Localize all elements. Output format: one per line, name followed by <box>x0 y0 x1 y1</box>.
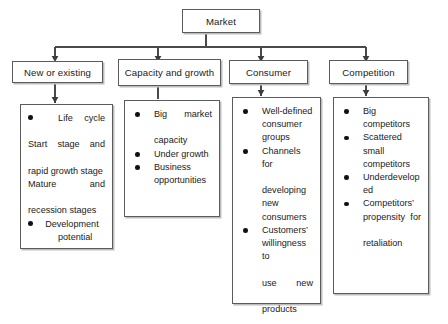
bullet-icon <box>135 152 140 157</box>
node-header-label: Capacity and growth <box>125 67 214 78</box>
list-item-text: use new <box>262 277 313 303</box>
list-item: Big competitors <box>341 105 421 131</box>
bullet-icon <box>243 228 248 233</box>
list-item: Customers’ willingness to use new produc… <box>240 224 313 316</box>
list-item-text: potential <box>58 232 92 242</box>
content-box-competition[interactable]: Big competitors Scattered small competit… <box>333 97 429 294</box>
arrowhead-content-4 <box>363 90 370 96</box>
node-header-new-or-existing[interactable]: New or existing <box>12 61 103 83</box>
bullet-icon <box>243 109 248 114</box>
list-item-text: Under growth <box>154 148 212 161</box>
bullet-icon <box>135 112 140 117</box>
node-market-root-label: Market <box>206 16 236 27</box>
list-item: Well-defined consumer groups <box>240 105 313 145</box>
content-list-new-or-existing: Life cycle Start stage and rapid growth … <box>28 112 105 244</box>
list-item-text: recession stages <box>28 205 96 215</box>
list-item-text: Start stage and <box>28 139 105 149</box>
list-item-text: Big market <box>154 108 212 134</box>
list-item-text: Life cycle <box>58 113 105 123</box>
content-box-consumer[interactable]: Well-defined consumer groups Channels fo… <box>232 97 321 304</box>
list-item: Channels for developing new consumers <box>240 145 313 224</box>
bullet-icon <box>344 109 349 114</box>
node-header-competition[interactable]: Competition <box>329 60 408 84</box>
list-item-text: competitors <box>363 158 421 171</box>
list-item-text: developing <box>262 184 313 197</box>
bullet-icon <box>28 115 33 120</box>
list-item-text: Competitors’ <box>363 197 421 210</box>
node-market-root[interactable]: Market <box>182 9 260 33</box>
list-item-text: ed <box>363 184 421 197</box>
node-header-capacity-and-growth[interactable]: Capacity and growth <box>118 59 221 86</box>
arrowhead-content-3 <box>258 90 265 96</box>
bullet-icon <box>344 175 349 180</box>
list-item: Underdevelop ed <box>341 171 421 197</box>
list-item: Competitors’ propensity for retaliation <box>341 197 421 250</box>
list-item-text: retaliation <box>363 237 421 250</box>
node-header-label: New or existing <box>24 67 91 78</box>
list-item-text: willingness to <box>262 237 313 277</box>
list-item-continuation: Mature and <box>28 178 105 204</box>
content-list-capacity-and-growth: Big market capacity Under growth Busines… <box>132 108 212 187</box>
bullet-icon <box>344 202 349 207</box>
content-box-capacity-and-growth[interactable]: Big market capacity Under growth Busines… <box>124 100 220 217</box>
bullet-icon <box>135 165 140 170</box>
list-item: Big market capacity <box>132 108 212 148</box>
list-item-text: small <box>363 145 421 158</box>
bullet-icon <box>344 136 349 141</box>
node-header-consumer[interactable]: Consumer <box>229 60 308 84</box>
list-item-text: Big <box>363 105 421 118</box>
bullet-icon <box>28 221 33 226</box>
content-list-consumer: Well-defined consumer groups Channels fo… <box>240 105 313 316</box>
arrowhead-content-1 <box>52 97 59 103</box>
list-item: Under growth <box>132 148 212 161</box>
market-analysis-diagram: Market New or existing Capacity and grow… <box>0 0 448 324</box>
node-header-label: Consumer <box>246 67 291 78</box>
list-item-continuation: Start stage and <box>28 138 105 164</box>
list-item-text: consumers <box>262 211 313 224</box>
list-item-text: Mature and <box>28 179 105 189</box>
list-item: Life cycle <box>28 112 105 138</box>
list-item-text: rapid growth stage <box>28 166 103 176</box>
list-item-text: opportunities <box>154 174 212 187</box>
list-item-text: Well-defined <box>262 105 313 118</box>
list-item-continuation: rapid growth stage <box>28 165 105 178</box>
list-item-continuation: potential <box>28 231 105 244</box>
bullet-icon <box>243 149 248 154</box>
content-list-competition: Big competitors Scattered small competit… <box>341 105 421 250</box>
content-box-new-or-existing[interactable]: Life cycle Start stage and rapid growth … <box>20 104 113 249</box>
list-item-text: Development <box>45 219 99 229</box>
list-item-text: Channels for <box>262 145 313 185</box>
list-item-text: Customers’ <box>262 224 313 237</box>
list-item: Business opportunities <box>132 161 212 187</box>
list-item-text: propensity for <box>363 211 421 237</box>
list-item-text: Underdevelop <box>363 171 421 184</box>
list-item: Development <box>28 218 105 231</box>
list-item-text: new <box>262 197 313 210</box>
list-item-text: consumer <box>262 118 313 131</box>
list-item-text: Business <box>154 161 212 174</box>
list-item-text: capacity <box>154 134 212 147</box>
list-item-text: groups <box>262 131 313 144</box>
list-item-text: products <box>262 303 313 316</box>
list-item-continuation: recession stages <box>28 204 105 217</box>
node-header-label: Competition <box>342 67 394 78</box>
list-item-text: competitors <box>363 118 421 131</box>
list-item-text: Scattered <box>363 131 421 144</box>
list-item: Scattered small competitors <box>341 131 421 171</box>
